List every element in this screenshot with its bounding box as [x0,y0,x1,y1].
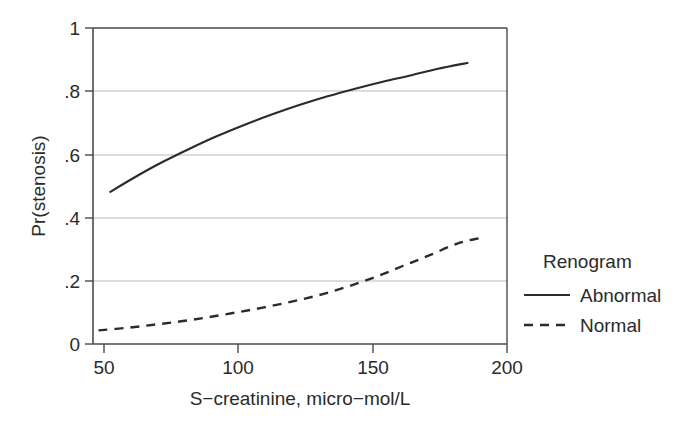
x-tick-label-100: 100 [222,357,254,378]
data-series-group [99,63,480,331]
y-tick-label-1: 1 [69,18,80,39]
chart-figure: 1 .8 .6 .4 .2 0 50 100 150 200 S−creatin… [0,0,683,427]
legend-title: Renogram [543,251,632,272]
x-tick-label-50: 50 [93,357,114,378]
y-axis-ticks [85,28,93,344]
legend-entry-normal[interactable]: Normal [524,315,641,336]
x-axis-title: S−creatinine, micro−mol/L [190,388,411,409]
plot-frame [93,28,507,344]
x-axis-tick-labels: 50 100 150 200 [93,357,522,378]
y-tick-label-0.4: .4 [64,208,80,229]
series-line-abnormal [110,63,469,193]
y-tick-label-0: 0 [69,334,80,355]
x-tick-label-200: 200 [491,357,523,378]
y-axis-tick-labels: 1 .8 .6 .4 .2 0 [64,18,80,355]
y-tick-label-0.8: .8 [64,81,80,102]
series-line-normal [99,238,480,330]
legend-label-abnormal: Abnormal [580,285,661,306]
y-tick-label-0.2: .2 [64,271,80,292]
x-axis-ticks [104,344,507,353]
legend: Renogram Abnormal Normal [524,251,661,336]
gridlines [93,91,507,281]
y-tick-label-0.6: .6 [64,145,80,166]
legend-label-normal: Normal [580,315,641,336]
legend-entry-abnormal[interactable]: Abnormal [524,285,661,306]
y-axis-title: Pr(stenosis) [28,135,49,236]
chart-canvas: 1 .8 .6 .4 .2 0 50 100 150 200 S−creatin… [0,0,683,427]
x-tick-label-150: 150 [357,357,389,378]
